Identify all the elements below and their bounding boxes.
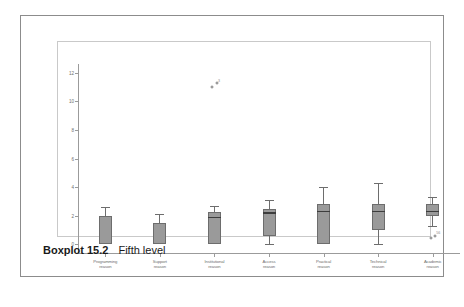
whisker-cap-lower [428,226,437,227]
whisker-cap-upper [155,214,164,215]
median-line [263,212,276,213]
x-tick-label: Institutional reason [191,259,237,269]
whisker-cap-lower [374,244,383,245]
whisker-cap-upper [319,187,328,188]
median-line [317,211,330,212]
y-tick-mark [75,159,78,160]
whisker-upper [159,214,160,223]
median-line [208,217,221,218]
median-line [426,211,439,212]
x-tick-mark [269,254,270,257]
y-tick-mark [75,216,78,217]
median-line [372,211,385,212]
caption-text: Fifth level [118,244,165,256]
x-tick-label: Support reason [137,259,183,269]
y-tick-mark [75,73,78,74]
caption-title: Boxplot 15.2 [43,244,108,256]
x-tick-label: Practical reason [301,259,347,269]
y-tick-label: 12 [69,70,74,75]
box [372,204,385,230]
whisker-cap-upper [374,183,383,184]
outlier-label: 3 [218,79,220,83]
whisker-cap-upper [101,207,110,208]
whisker-upper [378,183,379,204]
x-tick-label: Technical reason [355,259,401,269]
y-tick-mark [75,187,78,188]
x-tick-label: Academic reason [410,259,456,269]
y-tick-label: 4 [72,185,74,190]
y-tick-label: 10 [69,99,74,104]
x-tick-mark [324,254,325,257]
outlier-label: 56 [436,231,440,235]
outlier-marker [429,236,432,239]
x-tick-mark [214,254,215,257]
figure-caption: Boxplot 15.2Fifth level [43,244,165,256]
whisker-cap-lower [265,244,274,245]
y-tick-label: 6 [72,156,74,161]
x-tick-mark [433,254,434,257]
outlier-marker [211,85,214,88]
x-tick-mark [378,254,379,257]
box [153,223,166,244]
x-tick-label: Access reason [246,259,292,269]
whisker-upper [269,200,270,209]
whisker-upper [432,197,433,204]
whisker-lower [432,216,433,226]
plot-area: 024681012 Programming reasonSupport reas… [57,41,431,237]
whisker-upper [323,187,324,204]
whisker-cap-upper [265,200,274,201]
whisker-lower [378,230,379,244]
box [99,216,112,245]
whisker-cap-upper [210,206,219,207]
whisker-upper [105,207,106,216]
whisker-lower [269,236,270,245]
y-tick-mark [75,130,78,131]
y-axis-line [78,64,79,254]
y-tick-mark [75,101,78,102]
figure-panel: 024681012 Programming reasonSupport reas… [20,15,444,277]
x-tick-label: Programming reason [82,259,128,269]
y-tick-label: 8 [72,127,74,132]
y-tick-label: 2 [72,213,74,218]
whisker-cap-upper [428,197,437,198]
